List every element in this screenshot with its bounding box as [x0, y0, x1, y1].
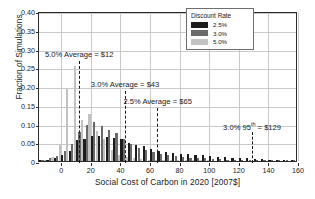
- y-tick: [36, 163, 39, 164]
- histogram-bar: [241, 160, 243, 161]
- legend-label: 2.5%: [213, 21, 227, 28]
- annotation-vline: [157, 108, 158, 163]
- histogram-bar: [263, 160, 265, 161]
- y-tick: [36, 32, 39, 33]
- legend-item: 2.5%: [191, 21, 249, 28]
- histogram-bar: [293, 160, 295, 161]
- histogram-bar: [226, 160, 228, 162]
- legend-title: Discount Rate: [191, 12, 249, 19]
- x-tick-label: 120: [224, 166, 254, 175]
- plot-area: 5.0% Average = $123.0% Average = $432.5%…: [38, 12, 297, 162]
- annotation-label: 3.0% Average = $43: [91, 80, 159, 89]
- histogram-bars: [39, 13, 296, 161]
- x-tick-label: 20: [76, 166, 106, 175]
- x-tick-label: 100: [194, 166, 224, 175]
- chart-figure: 5.0% Average = $123.0% Average = $432.5%…: [0, 0, 315, 199]
- annotation-vline: [79, 61, 80, 163]
- legend-swatch: [191, 22, 208, 28]
- legend-swatch: [191, 39, 208, 45]
- annotation-vline: [252, 132, 253, 163]
- histogram-bar: [256, 160, 258, 161]
- annotation-superscript: th: [251, 121, 256, 127]
- x-tick-label: 0: [46, 166, 76, 175]
- legend-items: 2.5%3.0%5.0%: [191, 21, 249, 45]
- annotation-label: 3.0% 95th = $129: [223, 121, 281, 132]
- annotation-label: 2.5% Average = $65: [123, 97, 191, 106]
- legend-label: 3.0%: [213, 30, 227, 37]
- legend-label: 5.0%: [213, 38, 227, 45]
- histogram-bar: [286, 160, 288, 161]
- legend-item: 5.0%: [191, 38, 249, 45]
- y-tick-label: 0: [9, 158, 35, 167]
- histogram-bar: [234, 160, 236, 162]
- legend-item: 3.0%: [191, 30, 249, 37]
- x-tick-label: 160: [283, 166, 313, 175]
- x-tick-label: 60: [135, 166, 165, 175]
- x-tick-label: 80: [165, 166, 195, 175]
- y-tick: [36, 144, 39, 145]
- y-tick: [36, 69, 39, 70]
- histogram-bar: [249, 160, 251, 161]
- histogram-bar: [271, 160, 273, 161]
- y-tick: [36, 107, 39, 108]
- y-tick: [36, 51, 39, 52]
- histogram-bar: [219, 159, 221, 161]
- x-tick-label: 140: [253, 166, 283, 175]
- histogram-bar: [278, 160, 280, 161]
- x-tick-label: 40: [105, 166, 135, 175]
- y-tick: [36, 126, 39, 127]
- y-tick: [36, 88, 39, 89]
- legend-swatch: [191, 30, 208, 36]
- gridline-vertical: [298, 13, 299, 161]
- y-tick: [36, 13, 39, 14]
- x-axis-title: Social Cost of Carbon in 2020 [2007$]: [38, 177, 297, 187]
- y-axis-title: Fraction of Simulations: [14, 0, 24, 132]
- legend: Discount Rate 2.5%3.0%5.0%: [186, 8, 254, 50]
- histogram-bar: [212, 159, 214, 161]
- annotation-label: 5.0% Average = $12: [45, 50, 113, 59]
- y-tick-label: 0.05: [9, 139, 35, 148]
